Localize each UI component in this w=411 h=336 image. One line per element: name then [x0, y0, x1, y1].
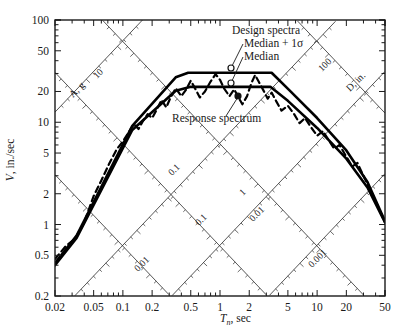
- diagonal-disp-ticks: [297, 164, 301, 167]
- diagonal-disp-ticks: [349, 212, 351, 214]
- diagonal-disp-ticks: [316, 144, 318, 146]
- diagonal-disp-ticks: [291, 170, 293, 172]
- diagonal-disp-ticks: [81, 289, 83, 291]
- diagonal-accel-ticks: [181, 105, 183, 107]
- diagonal-accel-ticks: [348, 282, 352, 285]
- diagonal-disp-ticks: [276, 289, 278, 291]
- diagonal-disp-ticks: [180, 185, 182, 187]
- diagonal-accel-ticks: [320, 47, 322, 49]
- diagonal-disp-ticks: [118, 250, 120, 252]
- y-tick-label: 1: [43, 219, 49, 231]
- median-plus-sigma-label: Median + 1σ: [244, 37, 304, 49]
- median-label: Median: [244, 50, 279, 62]
- curve-response-spectrum: [55, 74, 385, 259]
- diagonal-accel-ticks: [78, 201, 80, 203]
- diagonal-accel-ticks: [152, 177, 154, 179]
- x-tick-label: 0.2: [145, 301, 160, 313]
- diagonal-accel-ticks: [165, 190, 167, 192]
- diagonal-disp-ticks: [318, 244, 320, 246]
- diagonal-disp-ticks: [335, 124, 337, 126]
- diagonal-accel-ticks: [333, 60, 335, 62]
- diagonal-accel-ticks: [150, 73, 152, 75]
- design-spectra-label: Design spectra: [232, 24, 300, 37]
- diagonal-disp-ticks: [322, 137, 324, 139]
- diagonal-disp-ticks: [230, 132, 234, 135]
- diagonal-disp-ticks: [130, 33, 132, 35]
- diagonal-accel-ticks: [183, 210, 185, 212]
- diagonal-disp-ticks: [336, 225, 338, 227]
- diagonal-accel-ticks: [202, 229, 204, 231]
- x-tick-label: 5: [285, 301, 291, 313]
- diagonal-accel-ticks: [91, 215, 93, 217]
- x-tick-label: 50: [379, 301, 391, 313]
- diagonal-accel-ticks: [113, 34, 115, 36]
- diagonal-accel-ticks: [212, 138, 214, 140]
- diagonal-accel-ticks: [245, 275, 247, 277]
- diagonal-disp-ticks: [355, 206, 357, 208]
- diagonal-disp-ticks: [300, 263, 304, 266]
- diagonal-accel-ticks: [339, 67, 341, 69]
- diagonal-accel-ticks: [364, 93, 366, 95]
- diagonal-accel-ticks: [97, 221, 99, 223]
- diagonal-disp-ticks: [203, 263, 207, 266]
- data-curves-group: [55, 73, 385, 265]
- diagonal-accel-ticks: [293, 223, 295, 225]
- x-axis-label: Tn, sec: [220, 312, 251, 327]
- diagonal-accel-ticks: [113, 138, 117, 141]
- diagonal-disp-ticks: [143, 224, 145, 226]
- diagonal-accel-ticks: [355, 289, 357, 291]
- x-tick-label: 0.05: [84, 301, 104, 313]
- diagonal-accel-ticks: [158, 184, 160, 186]
- diagonal-disp-ticks: [282, 282, 284, 284]
- diagonal-accel-ticks: [206, 132, 208, 134]
- diagonal-disp-ticks: [191, 276, 193, 278]
- x-tick-label: 20: [341, 301, 353, 313]
- diagonal-disp-ticks: [261, 100, 265, 103]
- diagonal-disp-ticks: [197, 269, 199, 271]
- marker-response-spectrum: [235, 93, 241, 99]
- diagonal-disp-ticks: [267, 93, 269, 95]
- x-tick-label: 0.1: [116, 301, 131, 313]
- diagonal-disp-line-0.01: [270, 174, 386, 296]
- diagonal-accel-ticks: [370, 100, 372, 102]
- diagonal-accel-ticks: [243, 171, 245, 173]
- diagonal-accel-ticks: [377, 107, 379, 109]
- diagonal-accel-ticks: [65, 188, 67, 190]
- y-axis-label: V, in./sec: [4, 139, 17, 181]
- diagonal-accel-ticks: [140, 164, 142, 166]
- diagonal-accel-ticks: [59, 181, 61, 183]
- diagonal-disp-ticks: [306, 257, 308, 259]
- diagonal-accel-ticks: [250, 177, 252, 179]
- diagonal-accel-ticks: [59, 79, 61, 81]
- diagonal-disp-ticks: [149, 217, 151, 219]
- diagonal-accel-ticks: [231, 158, 233, 160]
- diagonal-disp-ticks: [205, 159, 207, 161]
- curve-median-1-: [55, 73, 385, 263]
- diagonal-disp-ticks: [241, 223, 243, 225]
- diagonal-axes-group: [55, 20, 385, 296]
- diagonal-accel-ticks: [281, 210, 283, 212]
- diagonal-accel-ticks: [176, 203, 180, 206]
- diagonal-accel-ticks: [237, 164, 239, 166]
- diagonal-disp-ticks: [235, 230, 239, 233]
- x-tick-label: 10: [311, 301, 323, 313]
- diagonal-disp-ticks: [310, 151, 312, 153]
- diagonal-accel-ticks: [138, 60, 140, 62]
- diagonal-disp-ticks: [311, 47, 313, 49]
- diagonal-accel-ticks: [90, 112, 92, 114]
- diagonal-accel-ticks: [299, 230, 301, 232]
- diagonal-disp-ticks: [61, 106, 63, 108]
- diagonal-accel-ticks: [107, 27, 109, 29]
- diagonal-accel-ticks: [306, 236, 308, 238]
- diagonal-disp-ticks: [162, 204, 164, 206]
- diagonal-accel-ticks: [207, 236, 211, 239]
- diagonal-accel-ticks: [82, 105, 86, 108]
- diagonal-accel-ticks: [274, 204, 276, 206]
- diagonal-accel-ticks: [126, 47, 128, 49]
- diagonal-disp-ticks: [199, 165, 203, 168]
- diagonal-accel-ticks: [115, 241, 119, 244]
- diagonal-disp-ticks: [298, 60, 300, 62]
- diagonal-accel-ticks: [200, 125, 202, 127]
- diagonal-accel-ticks: [145, 171, 149, 174]
- diagonal-disp-ticks: [93, 276, 95, 278]
